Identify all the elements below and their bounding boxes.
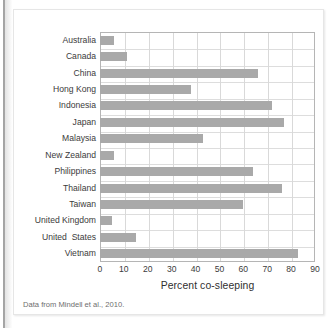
x-tick-label-0: 0 bbox=[88, 264, 112, 274]
page-gutter-shadow bbox=[5, 0, 12, 328]
x-tick-label-80: 80 bbox=[279, 264, 303, 274]
category-label-united-states: United States bbox=[14, 233, 96, 242]
category-label-united-kingdom: United Kingdom bbox=[14, 216, 96, 225]
bar-new-zealand bbox=[100, 151, 114, 160]
x-tick-label-60: 60 bbox=[231, 264, 255, 274]
x-tick-label-50: 50 bbox=[207, 264, 231, 274]
bar-united-states bbox=[100, 233, 136, 242]
category-label-indonesia: Indonesia bbox=[14, 101, 96, 110]
category-label-japan: Japan bbox=[14, 118, 96, 127]
x-tick-label-30: 30 bbox=[160, 264, 184, 274]
bar-indonesia bbox=[100, 101, 272, 110]
bar-united-kingdom bbox=[100, 216, 112, 225]
bar-china bbox=[100, 69, 258, 78]
x-tick-label-20: 20 bbox=[136, 264, 160, 274]
figure-card: AustraliaCanadaChinaHong KongIndonesiaJa… bbox=[13, 9, 324, 315]
bar-hong-kong bbox=[100, 85, 191, 94]
bar-australia bbox=[100, 36, 114, 45]
category-label-taiwan: Taiwan bbox=[14, 200, 96, 209]
x-tick-label-10: 10 bbox=[112, 264, 136, 274]
category-label-australia: Australia bbox=[14, 36, 96, 45]
x-axis-tick-labels: 0102030405060708090 bbox=[100, 264, 315, 278]
bar-malaysia bbox=[100, 134, 203, 143]
bar-chart: AustraliaCanadaChinaHong KongIndonesiaJa… bbox=[14, 10, 325, 316]
bar-thailand bbox=[100, 184, 282, 193]
x-tick-label-90: 90 bbox=[303, 264, 327, 274]
category-label-malaysia: Malaysia bbox=[14, 134, 96, 143]
bar-vietnam bbox=[100, 249, 298, 258]
category-label-philippines: Philippines bbox=[14, 167, 96, 176]
bars-layer bbox=[100, 32, 315, 262]
category-label-vietnam: Vietnam bbox=[14, 249, 96, 258]
bar-japan bbox=[100, 118, 284, 127]
category-axis-labels: AustraliaCanadaChinaHong KongIndonesiaJa… bbox=[14, 32, 96, 262]
x-tick-label-40: 40 bbox=[184, 264, 208, 274]
bar-philippines bbox=[100, 167, 253, 176]
figure-caption: Data from Mindell et al., 2010. bbox=[23, 300, 124, 309]
x-axis-title: Percent co-sleeping bbox=[100, 280, 315, 291]
category-label-hong-kong: Hong Kong bbox=[14, 85, 96, 94]
category-label-thailand: Thailand bbox=[14, 184, 96, 193]
x-tick-label-70: 70 bbox=[255, 264, 279, 274]
category-label-canada: Canada bbox=[14, 52, 96, 61]
bar-taiwan bbox=[100, 200, 243, 209]
category-label-china: China bbox=[14, 69, 96, 78]
bar-canada bbox=[100, 52, 127, 61]
category-label-new-zealand: New Zealand bbox=[14, 151, 96, 160]
